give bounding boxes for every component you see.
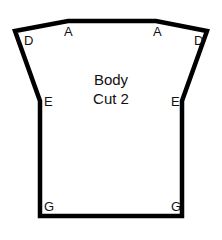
body-pattern-shape [15,21,207,216]
point-label-left-e: E [44,95,53,108]
point-label-left-a: A [64,25,73,38]
point-label-left-d: D [24,34,33,47]
point-label-right-d: D [194,34,203,47]
pattern-title-line2: Cut 2 [71,89,151,108]
point-label-left-g: G [44,200,54,213]
point-label-right-g: G [171,200,181,213]
point-label-right-e: E [171,95,180,108]
pattern-title-line1: Body [71,70,151,89]
point-label-right-a: A [153,25,162,38]
